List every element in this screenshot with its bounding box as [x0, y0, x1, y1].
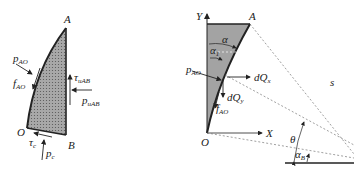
diagram-canvas: A O B pAO fAO τuAB puAB τc pc Y X A O [0, 0, 354, 178]
label-fAO: fAO [216, 102, 228, 116]
label-alpha: α [222, 33, 228, 45]
left-free-body: A O B pAO fAO τuAB puAB τc pc [12, 13, 100, 161]
arrow-tau-c [34, 133, 52, 137]
x-axis-label: X [265, 127, 274, 139]
label-fAO: fAO [13, 77, 25, 91]
label-dQx: dQx [254, 71, 271, 85]
label-pAO: pAO [185, 63, 201, 77]
length-s-label: s [330, 76, 334, 88]
label-p-uAB: puAB [81, 94, 100, 108]
dashed-base [207, 133, 354, 158]
label-pAO: pAO [12, 52, 28, 66]
point-O-label: O [17, 126, 25, 138]
right-geometry: Y X A O s α α1 pAO dQx dQy fAO θ αB [185, 10, 354, 163]
label-pc: pc [45, 147, 56, 161]
wedge-region [27, 28, 66, 135]
arc-alphaB [307, 154, 309, 162]
label-dQy: dQy [227, 91, 244, 105]
point-A-label: A [63, 13, 71, 25]
label-theta: θ [290, 133, 296, 145]
label-alphaB: αB [295, 148, 306, 162]
point-A-label: A [248, 10, 256, 22]
arrow-pc [42, 140, 44, 160]
label-tau-c: τc [29, 136, 37, 150]
point-B-label: B [68, 139, 75, 151]
y-axis-label: Y [196, 10, 204, 22]
wedge-region [207, 24, 250, 133]
label-tau-uAB: τuAB [74, 71, 91, 85]
point-O-label: O [201, 136, 209, 148]
